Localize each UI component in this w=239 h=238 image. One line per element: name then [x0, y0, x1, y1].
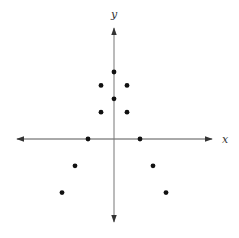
- data-point: [60, 190, 65, 195]
- data-point: [86, 137, 91, 142]
- data-point: [164, 190, 169, 195]
- data-point: [151, 163, 156, 168]
- data-point: [73, 163, 78, 168]
- data-point: [125, 83, 130, 88]
- scatter-plot: x y: [0, 0, 239, 238]
- y-axis-label: y: [110, 8, 118, 21]
- data-point: [125, 110, 130, 115]
- data-point: [99, 110, 104, 115]
- data-point: [99, 83, 104, 88]
- data-point: [138, 137, 143, 142]
- data-point: [112, 70, 117, 75]
- x-axis-label: x: [222, 133, 229, 146]
- data-point: [112, 96, 117, 101]
